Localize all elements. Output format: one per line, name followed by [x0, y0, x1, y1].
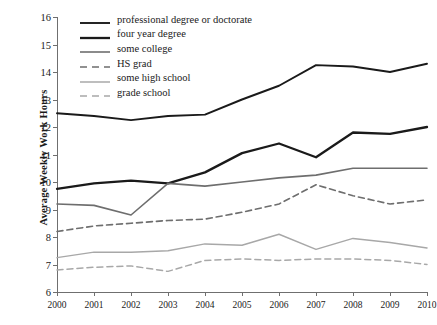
x-tick-label: 2000	[48, 300, 67, 310]
x-tick	[427, 292, 428, 296]
x-tick-label: 2001	[85, 300, 104, 310]
x-tick	[205, 292, 206, 296]
x-tick-label: 2005	[233, 300, 252, 310]
legend: professional degree or doctoratefour yea…	[80, 12, 252, 100]
series-line	[57, 127, 427, 189]
y-tick-label: 12	[41, 122, 52, 133]
legend-item: HS grad	[80, 56, 252, 71]
y-tick-label: 10	[41, 177, 52, 188]
legend-label: four year degree	[117, 28, 186, 39]
y-tick-label: 15	[41, 39, 52, 50]
legend-label: some college	[117, 43, 172, 54]
x-tick-label: 2007	[307, 300, 326, 310]
y-tick-label: 16	[41, 12, 52, 23]
x-tick-label: 2008	[344, 300, 363, 310]
x-tick	[168, 292, 169, 296]
y-tick-label: 13	[41, 94, 52, 105]
x-tick	[94, 292, 95, 296]
legend-label: professional degree or doctorate	[117, 14, 252, 25]
x-tick-label: 2010	[418, 300, 437, 310]
legend-item: some high school	[80, 70, 252, 85]
y-tick-label: 7	[46, 259, 51, 270]
legend-item: some college	[80, 41, 252, 56]
legend-swatch-icon	[80, 73, 110, 83]
y-tick-label: 14	[41, 67, 52, 78]
y-tick-label: 9	[46, 204, 51, 215]
legend-swatch-icon	[80, 14, 110, 24]
x-tick-label: 2009	[381, 300, 400, 310]
legend-item: grade school	[80, 85, 252, 100]
x-tick	[353, 292, 354, 296]
x-tick	[57, 292, 58, 296]
x-tick	[242, 292, 243, 296]
legend-item: four year degree	[80, 27, 252, 42]
x-tick-label: 2003	[159, 300, 178, 310]
legend-swatch-icon	[80, 87, 110, 97]
legend-item: professional degree or doctorate	[80, 12, 252, 27]
legend-label: grade school	[117, 87, 170, 98]
y-tick-label: 6	[46, 287, 51, 298]
x-tick	[316, 292, 317, 296]
legend-swatch-icon	[80, 43, 110, 53]
series-line	[57, 168, 427, 215]
legend-label: HS grad	[117, 58, 152, 69]
legend-label: some high school	[117, 72, 191, 83]
y-tick-label: 8	[46, 232, 51, 243]
series-line	[57, 259, 427, 271]
series-line	[57, 185, 427, 232]
x-tick-label: 2002	[122, 300, 141, 310]
x-tick	[390, 292, 391, 296]
x-tick-label: 2006	[270, 300, 289, 310]
x-tick	[279, 292, 280, 296]
x-tick-label: 2004	[196, 300, 215, 310]
y-tick-label: 11	[41, 149, 51, 160]
x-tick	[131, 292, 132, 296]
series-line	[57, 234, 427, 257]
legend-swatch-icon	[80, 29, 110, 39]
legend-swatch-icon	[80, 58, 110, 68]
